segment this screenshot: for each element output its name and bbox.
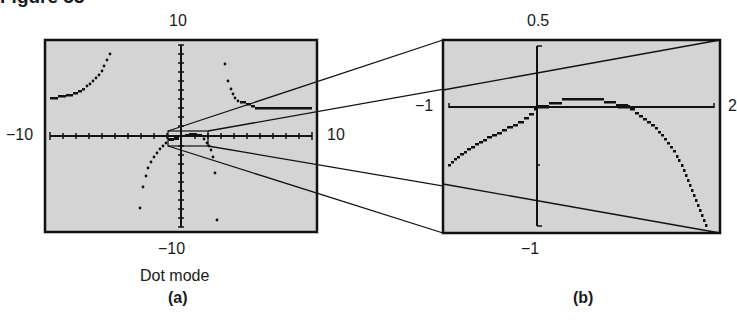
panel-a-xmax-label: 10 (327, 126, 345, 144)
panel-a-xmin-label: −10 (6, 126, 33, 144)
panel-a-caption: (a) (168, 289, 188, 307)
panel-b-screen (443, 40, 720, 233)
panel-a-screen (45, 40, 317, 232)
panel-b-caption: (b) (573, 289, 593, 307)
panel-b-xmax-label: 2 (728, 97, 737, 115)
panel-a-mode-label: Dot mode (140, 267, 209, 285)
panel-a-ymin-label: −10 (158, 240, 185, 258)
panel-b-xmin-label: −1 (415, 97, 433, 115)
panel-a-ymax-label: 10 (169, 12, 187, 30)
panel-b-ymin-label: −1 (521, 240, 539, 258)
panel-b-ymax-label: 0.5 (527, 12, 549, 30)
